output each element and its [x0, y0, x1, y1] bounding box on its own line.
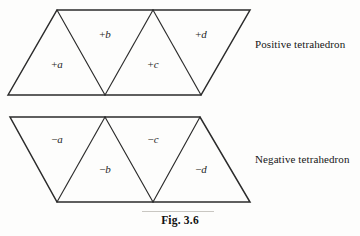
negative-tetrahedron-caption: Negative tetrahedron [255, 153, 350, 165]
net-fold-edge-2 [105, 117, 153, 202]
face-letter: d [201, 28, 207, 40]
negative-tetrahedron-net: −a−b−c−d [10, 117, 250, 202]
face-label-face-neg-b: −b [99, 163, 111, 175]
face-label-face-pos-d: +d [195, 28, 207, 40]
face-label-face-neg-c: −c [147, 133, 158, 145]
net-fold-edge-3 [153, 117, 200, 202]
figure-caption-rule [142, 211, 214, 212]
face-letter: b [105, 28, 111, 40]
face-label-face-pos-b: +b [99, 28, 111, 40]
net-fold-edge-2 [105, 10, 153, 95]
figure-container: +a+b+c+d −a−b−c−d Positive tetrahedron N… [0, 0, 360, 236]
face-letter: a [57, 58, 63, 70]
figure-number-caption: Fig. 3.6 [0, 214, 360, 226]
face-label-face-neg-d: −d [195, 163, 207, 175]
net-fold-edge-3 [153, 10, 201, 95]
face-letter: c [154, 58, 159, 70]
face-label-face-pos-c: +c [147, 58, 158, 70]
net-outline [10, 117, 250, 202]
face-label-face-pos-a: +a [51, 58, 63, 70]
face-letter: c [154, 133, 159, 145]
face-letter: a [57, 133, 63, 145]
net-fold-edge-1 [57, 10, 105, 95]
positive-tetrahedron-net: +a+b+c+d [8, 10, 250, 95]
face-letter: b [105, 163, 111, 175]
tetrahedron-nets-diagram: +a+b+c+d −a−b−c−d [0, 0, 360, 236]
face-letter: d [201, 163, 207, 175]
positive-tetrahedron-caption: Positive tetrahedron [255, 38, 345, 50]
face-label-face-neg-a: −a [51, 133, 63, 145]
net-fold-edge-1 [57, 117, 105, 202]
